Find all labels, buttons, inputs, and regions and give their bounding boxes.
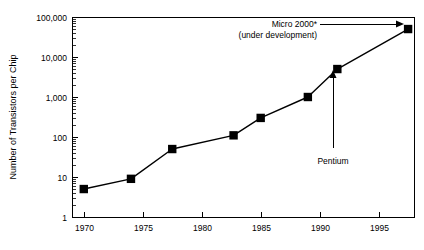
- data-point-marker: [333, 65, 341, 73]
- y-tick-label: 100,000: [36, 13, 67, 23]
- y-axis-title: Number of Transistors per Chip: [8, 54, 18, 179]
- x-tick-label: 1975: [134, 223, 153, 233]
- data-point-marker: [404, 25, 412, 33]
- data-point-marker: [168, 145, 176, 153]
- data-point-marker: [127, 175, 135, 183]
- x-tick-label: 1980: [193, 223, 212, 233]
- y-tick-label: 100: [53, 133, 67, 143]
- micro-2000-label-line1: Micro 2000*: [272, 19, 318, 29]
- y-tick-label: 10,000: [41, 53, 67, 63]
- micro-2000-label-line2: (under development): [239, 30, 318, 40]
- y-tick-label: 10: [58, 173, 68, 183]
- data-point-marker: [256, 114, 264, 122]
- data-point-marker: [304, 93, 312, 101]
- pentium-label: Pentium: [317, 156, 348, 166]
- chart-canvas: 1101001,00010,000100,000 197019751980198…: [0, 0, 424, 250]
- y-tick-label: 1,000: [46, 93, 68, 103]
- data-point-marker: [80, 185, 88, 193]
- y-tick-label: 1: [62, 213, 67, 223]
- x-tick-label: 1990: [311, 223, 330, 233]
- transistor-growth-chart: 1101001,00010,000100,000 197019751980198…: [0, 0, 424, 250]
- x-tick-label: 1985: [252, 223, 271, 233]
- x-tick-label: 1995: [370, 223, 389, 233]
- x-tick-label: 1970: [75, 223, 94, 233]
- data-point-marker: [229, 131, 237, 139]
